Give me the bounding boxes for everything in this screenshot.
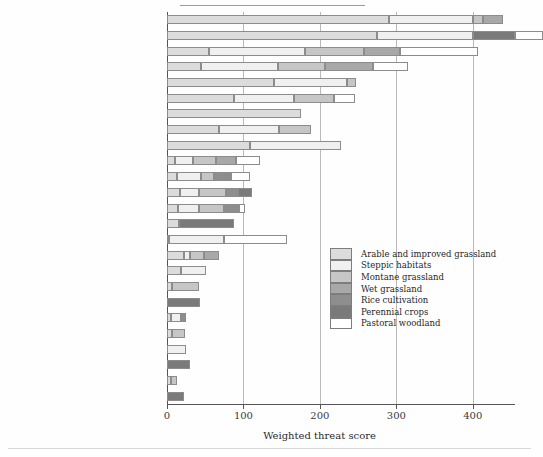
category-label-column: 1. Crop improvements2. Pesticide use3. L… — [0, 0, 163, 457]
bar-segment — [167, 172, 177, 181]
bar-segment — [274, 78, 347, 87]
stacked-bar — [167, 360, 190, 369]
bottom-divider-rule — [8, 448, 531, 449]
bar-segment — [373, 62, 408, 71]
stacked-bar — [167, 204, 245, 213]
bar-segment — [167, 156, 175, 165]
bar-segment — [179, 219, 234, 228]
bar-segment — [167, 345, 186, 354]
bar-segment — [216, 156, 236, 165]
bar-segment — [305, 47, 365, 56]
bar-segment — [473, 31, 515, 40]
bar-segment — [334, 94, 355, 103]
stacked-bar — [167, 31, 543, 40]
bar-segment — [167, 78, 274, 87]
chart-legend: Arable and improved grasslandSteppic hab… — [330, 248, 505, 329]
bar-segment — [389, 15, 473, 24]
stacked-bar — [167, 282, 199, 291]
stacked-bar — [167, 266, 206, 275]
legend-swatch — [330, 318, 352, 330]
stacked-bar — [167, 313, 186, 322]
legend-item: Perennial crops — [330, 306, 505, 318]
x-tick-label-200: 200 — [310, 410, 329, 421]
bar-segment — [224, 204, 239, 213]
bar-segment — [169, 235, 224, 244]
bar-segment — [167, 15, 389, 24]
bar-segment — [167, 62, 201, 71]
bar-segment — [473, 15, 483, 24]
bar-segment — [167, 360, 190, 369]
stacked-bar — [167, 172, 250, 181]
bar-segment — [171, 376, 177, 385]
bar-segment — [190, 251, 204, 260]
stacked-bar — [167, 345, 186, 354]
x-tick-300 — [396, 404, 397, 409]
bar-segment — [204, 251, 219, 260]
legend-label: Montane grassland — [361, 272, 444, 282]
bar-segment — [234, 94, 294, 103]
bar-segment — [199, 204, 223, 213]
bar-segment — [167, 392, 184, 401]
legend-item: Wet grassland — [330, 283, 505, 295]
bar-segment — [239, 204, 245, 213]
bar-segment — [167, 94, 234, 103]
x-tick-label-0: 0 — [164, 410, 170, 421]
stacked-bar — [167, 251, 219, 260]
legend-item: Arable and improved grassland — [330, 248, 505, 260]
stacked-bar — [167, 329, 185, 338]
stacked-bar — [167, 298, 200, 307]
bar-segment — [294, 94, 334, 103]
legend-swatch — [330, 260, 352, 272]
legend-label: Wet grassland — [361, 284, 422, 294]
stacked-bar — [167, 156, 260, 165]
stacked-bar — [167, 235, 287, 244]
stacked-bar — [167, 376, 177, 385]
bar-segment — [278, 62, 325, 71]
x-tick-200 — [320, 404, 321, 409]
stacked-bar — [167, 125, 311, 134]
stacked-bar — [167, 78, 356, 87]
stacked-bar — [167, 15, 503, 24]
x-tick-label-100: 100 — [234, 410, 253, 421]
bar-segment — [177, 172, 201, 181]
stacked-bar — [167, 109, 301, 118]
bar-segment — [178, 204, 199, 213]
bar-segment — [377, 31, 473, 40]
bar-segment — [201, 62, 277, 71]
bar-segment — [167, 219, 179, 228]
x-axis-label-text: Weighted threat score — [263, 430, 376, 441]
legend-item: Montane grassland — [330, 271, 505, 283]
x-tick-100 — [243, 404, 244, 409]
bar-segment — [175, 156, 193, 165]
bar-segment — [325, 62, 372, 71]
bar-segment — [172, 329, 186, 338]
bar-segment — [193, 156, 216, 165]
bar-segment — [167, 47, 209, 56]
bar-segment — [181, 266, 206, 275]
bar-segment — [172, 282, 200, 291]
gridline-400 — [473, 12, 474, 404]
bar-segment — [400, 47, 478, 56]
bar-segment — [214, 172, 231, 181]
legend-label: Steppic habitats — [361, 260, 431, 270]
bar-segment — [219, 125, 279, 134]
legend-swatch — [330, 294, 352, 306]
bar-segment — [483, 15, 503, 24]
legend-label: Rice cultivation — [361, 295, 428, 305]
legend-label: Perennial crops — [361, 307, 428, 317]
bar-segment — [231, 172, 249, 181]
x-tick-0 — [167, 404, 168, 409]
x-axis-label: Weighted threat score — [0, 430, 539, 441]
stacked-bar — [167, 94, 355, 103]
x-tick-label-300: 300 — [387, 410, 406, 421]
bar-segment — [167, 204, 178, 213]
bar-segment — [347, 78, 356, 87]
legend-item: Rice cultivation — [330, 294, 505, 306]
bar-segment — [181, 313, 186, 322]
bar-segment — [167, 298, 200, 307]
stacked-bar — [167, 219, 234, 228]
bar-segment — [209, 47, 305, 56]
legend-item: Steppic habitats — [330, 260, 505, 272]
legend-item: Pastoral woodland — [330, 318, 505, 330]
